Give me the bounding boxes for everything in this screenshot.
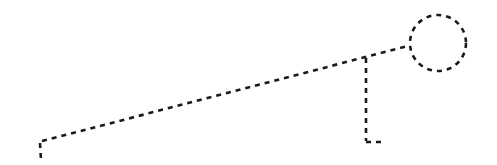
diagonal-dashed-line [42,46,408,141]
dashed-line-diagram [0,0,497,165]
dashed-circle [410,15,466,71]
diagram-canvas [0,0,497,165]
left-drop-line [40,143,41,160]
